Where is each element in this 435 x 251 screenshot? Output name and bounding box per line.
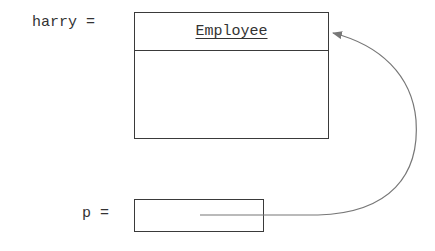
reference-arrow-path [200,33,416,215]
reference-arrow [0,0,435,251]
